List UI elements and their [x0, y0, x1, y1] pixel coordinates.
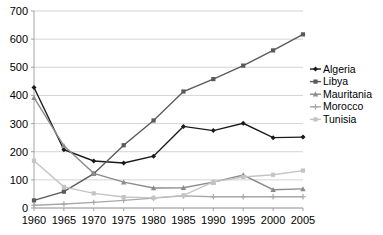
- data-point-libya-2005: [301, 32, 305, 36]
- data-point-libya-1960: [32, 198, 36, 202]
- legend-item-morocco[interactable]: Morocco: [310, 100, 363, 112]
- legend-item-algeria[interactable]: Algeria: [310, 63, 356, 75]
- data-point-tunisia-2000: [271, 173, 275, 177]
- series-line-tunisia: [34, 161, 303, 198]
- data-point-morocco-2005: [300, 194, 305, 199]
- data-point-morocco-2000: [270, 194, 275, 199]
- legend-item-libya[interactable]: Libya: [310, 75, 348, 87]
- legend-label-tunisia: Tunisia: [323, 113, 357, 125]
- line-chart: 0100200300400500600700 19601965197019751…: [0, 0, 383, 235]
- series-morocco: [31, 193, 305, 208]
- data-point-libya-2000: [271, 48, 275, 52]
- data-point-tunisia-1975: [122, 195, 126, 199]
- data-point-tunisia-1960: [32, 159, 36, 163]
- x-axis-tick-labels: 1960196519701975198019851990199520002005: [22, 214, 315, 226]
- y-tick-label: 400: [10, 89, 28, 101]
- x-tick-label: 1990: [201, 214, 225, 226]
- data-point-algeria-1960: [32, 85, 37, 90]
- y-tick-label: 700: [10, 5, 28, 17]
- legend-item-mauritania[interactable]: Mauritania: [310, 88, 372, 100]
- series-mauritania: [31, 95, 305, 192]
- legend-item-tunisia[interactable]: Tunisia: [310, 113, 357, 125]
- data-point-algeria-1975: [121, 160, 126, 165]
- plot-area-wrapper: 0100200300400500600700 19601965197019751…: [0, 0, 383, 235]
- y-tick-label: 0: [22, 202, 28, 214]
- data-point-algeria-2000: [271, 135, 276, 140]
- y-tick-label: 100: [10, 174, 28, 186]
- series-libya: [32, 32, 305, 202]
- chart-legend: AlgeriaLibyaMauritaniaMoroccoTunisia: [310, 63, 372, 125]
- data-point-tunisia-1985: [181, 193, 185, 197]
- y-axis-tick-labels: 0100200300400500600700: [10, 5, 28, 214]
- legend-label-morocco: Morocco: [323, 100, 363, 112]
- chart-container: 0100200300400500600700 19601965197019751…: [0, 0, 383, 235]
- axes: [31, 11, 303, 211]
- data-point-algeria-1990: [211, 128, 216, 133]
- data-point-tunisia-1970: [92, 191, 96, 195]
- data-point-morocco-1965: [61, 201, 66, 206]
- data-point-libya-1965: [62, 190, 66, 194]
- x-tick-label: 1970: [82, 214, 106, 226]
- x-tick-label: 1960: [22, 214, 46, 226]
- data-point-tunisia-1995: [241, 175, 245, 179]
- legend-label-mauritania: Mauritania: [323, 88, 372, 100]
- data-point-algeria-1995: [241, 121, 246, 126]
- data-point-tunisia-2005: [301, 168, 305, 172]
- legend-marker-tunisia: [313, 117, 317, 121]
- x-tick-label: 1975: [111, 214, 135, 226]
- data-point-tunisia-1965: [62, 185, 66, 189]
- x-tick-label: 1980: [141, 214, 165, 226]
- data-point-libya-1980: [151, 118, 155, 122]
- y-tick-label: 200: [10, 146, 28, 158]
- legend-marker-libya: [313, 80, 317, 84]
- data-point-morocco-1960: [31, 202, 36, 207]
- data-point-libya-1990: [211, 77, 215, 81]
- data-point-algeria-2005: [301, 135, 306, 140]
- y-tick-label: 600: [10, 33, 28, 45]
- legend-marker-algeria: [313, 67, 318, 72]
- series-tunisia: [32, 159, 305, 200]
- data-point-tunisia-1990: [211, 180, 215, 184]
- y-tick-label: 300: [10, 118, 28, 130]
- data-point-libya-1975: [122, 143, 126, 147]
- data-point-morocco-1990: [211, 194, 216, 199]
- x-tick-label: 2000: [261, 214, 285, 226]
- data-point-libya-1995: [241, 63, 245, 67]
- data-point-morocco-1995: [241, 194, 246, 199]
- data-series-layer: [31, 32, 305, 208]
- x-tick-label: 1965: [52, 214, 76, 226]
- data-point-algeria-1970: [91, 159, 96, 164]
- legend-label-algeria: Algeria: [323, 63, 356, 75]
- x-tick-label: 2005: [291, 214, 315, 226]
- data-point-libya-1985: [181, 89, 185, 93]
- x-tick-label: 1985: [171, 214, 195, 226]
- y-tick-label: 500: [10, 61, 28, 73]
- legend-marker-morocco: [313, 104, 318, 109]
- data-point-tunisia-1980: [151, 196, 155, 200]
- legend-label-libya: Libya: [323, 75, 348, 87]
- data-point-morocco-1970: [91, 200, 96, 205]
- gridlines: [34, 11, 303, 208]
- x-tick-label: 1995: [231, 214, 255, 226]
